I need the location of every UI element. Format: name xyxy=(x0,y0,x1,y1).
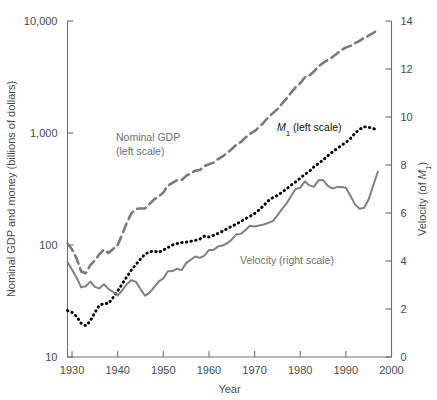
x-tick-label: 1950 xyxy=(151,364,175,376)
right-tick-label: 4 xyxy=(401,255,407,267)
m1-label: M1 (left scale) xyxy=(277,121,342,138)
x-tick-label: 1970 xyxy=(242,364,266,376)
x-axis-title: Year xyxy=(218,383,241,395)
x-tick-label: 1940 xyxy=(105,364,129,376)
data-series-group xyxy=(68,30,378,326)
velocity-label: Velocity (right scale) xyxy=(240,254,334,266)
x-tick-label: 1960 xyxy=(197,364,221,376)
left-tick-label: 10,000 xyxy=(24,15,58,27)
right-tick-label: 12 xyxy=(401,63,413,75)
y-axis-title: Nominal GDP and money (billions of dolla… xyxy=(5,81,17,297)
x-tick-label: 1980 xyxy=(288,364,312,376)
right-tick-label: 2 xyxy=(401,303,407,315)
x-tick-label: 2000 xyxy=(379,364,403,376)
left-tick-label: 1,000 xyxy=(30,127,58,139)
y2-axis-title: Velocity (of M1) xyxy=(416,162,433,236)
left-tick-label: 100 xyxy=(39,239,57,251)
x-tick-label: 1930 xyxy=(60,364,84,376)
right-tick-label: 6 xyxy=(401,207,407,219)
series-annotations-group: Nominal GDP(left scale)M1 (left scale)Ve… xyxy=(116,121,342,266)
chart-figure: 101001,00010,000024681012141930194019501… xyxy=(0,0,437,400)
axes-group xyxy=(68,21,392,357)
right-tick-label: 0 xyxy=(401,351,407,363)
x-tick-label: 1990 xyxy=(334,364,358,376)
axis-frame xyxy=(68,21,392,357)
axis-labels-group: 101001,00010,000024681012141930194019501… xyxy=(5,15,433,395)
nominal-gdp-label: Nominal GDP xyxy=(116,131,180,143)
right-tick-label: 10 xyxy=(401,111,413,123)
right-tick-label: 8 xyxy=(401,159,407,171)
left-tick-label: 10 xyxy=(45,351,57,363)
nominal-gdp-label-line2: (left scale) xyxy=(116,145,164,157)
series-line-solid xyxy=(68,172,378,296)
chart-canvas: 101001,00010,000024681012141930194019501… xyxy=(0,0,437,400)
right-tick-label: 14 xyxy=(401,15,413,27)
